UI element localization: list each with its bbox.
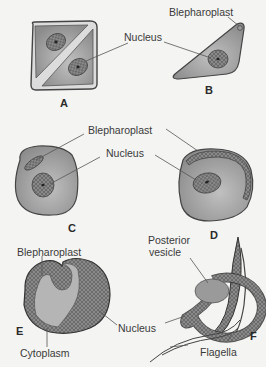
panel-label-b: B — [205, 84, 213, 96]
cell-d — [179, 149, 253, 221]
label-flagella-f: Flagella — [200, 346, 237, 358]
leader-blepharoplast-b — [228, 17, 239, 26]
panel-label-c: C — [68, 222, 76, 234]
cell-a — [31, 21, 97, 90]
label-cytoplasm-e: Cytoplasm — [20, 347, 70, 359]
cell-b — [173, 23, 244, 79]
panel-label-a: A — [60, 97, 68, 109]
panel-label-d: D — [210, 229, 218, 241]
cell-e — [24, 259, 110, 334]
leader-blepharoplast-d — [166, 129, 198, 151]
label-blepharoplast-e: Blepharoplast — [17, 246, 81, 258]
figure-canvas: Nucleus Blepharoplast A B Blepharoplast … — [0, 0, 266, 367]
label-blepharoplast-b: Blepharoplast — [169, 6, 233, 18]
panel-label-f: F — [250, 330, 257, 342]
label-blepharoplast-cd: Blepharoplast — [88, 124, 152, 136]
label-vesicle: vesicle — [149, 246, 181, 258]
leader-posterior-vesicle-f — [190, 258, 208, 283]
panel-label-e: E — [16, 325, 23, 337]
label-nucleus-cd: Nucleus — [106, 147, 144, 159]
cell-c — [15, 146, 77, 215]
label-posterior: Posterior — [148, 234, 190, 246]
label-nucleus-ab: Nucleus — [124, 31, 162, 43]
label-nucleus-ef: Nucleus — [118, 322, 156, 334]
diagram-artwork — [0, 0, 266, 367]
